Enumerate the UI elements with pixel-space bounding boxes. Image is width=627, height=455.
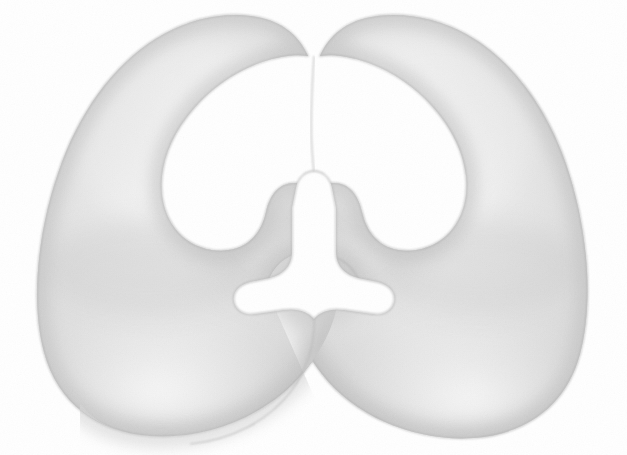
paper-grain-overlay — [0, 0, 627, 455]
seed-illustration — [0, 0, 627, 455]
illustration-canvas: Two large kidney-shaped lobes meeting at… — [0, 0, 627, 455]
